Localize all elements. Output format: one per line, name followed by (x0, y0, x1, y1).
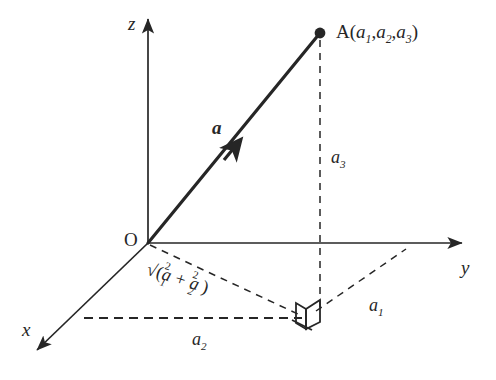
point-a-prefix: A( (336, 21, 356, 42)
vector-diagram-figure: z y x O a A(a1,a2,a3) a3 a1 a2 √(a12+a22… (0, 0, 496, 380)
component-a2-sub: 2 (201, 340, 207, 352)
component-a3-sub: 3 (340, 158, 346, 170)
point-a-label: A(a1,a2,a3) (336, 22, 418, 46)
right-angle-marker (292, 300, 320, 330)
z-axis-label: z (128, 14, 135, 33)
x-axis-line (37, 243, 148, 350)
vector-a-label: a (212, 118, 222, 137)
origin-label: O (124, 230, 138, 249)
dashed-a1-line (316, 249, 406, 311)
y-axis-label: y (461, 258, 469, 277)
component-a1-var: a (369, 295, 378, 315)
point-a-coord-3: a (396, 21, 406, 42)
component-a3-label: a3 (331, 148, 346, 170)
component-a2-var: a (192, 329, 201, 349)
component-a3-var: a (331, 147, 340, 167)
point-a-coord-2: a (376, 21, 386, 42)
point-a-coord-1: a (356, 21, 366, 42)
x-axis-label: x (22, 320, 30, 339)
vector-a-line (148, 33, 320, 243)
point-a-marker (315, 28, 326, 39)
point-a-suffix: ) (412, 21, 418, 42)
component-a1-label: a1 (369, 296, 384, 318)
component-a1-sub: 1 (378, 306, 384, 318)
component-a2-label: a2 (192, 330, 207, 352)
diagram-canvas (0, 0, 496, 380)
